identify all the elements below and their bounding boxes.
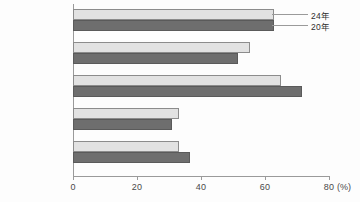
bar-4-series-20 [73, 152, 190, 163]
x-axis-tick-label-40: 40 [196, 182, 206, 192]
bar-2-series-24 [73, 75, 281, 86]
x-axis-tick-label-60: 60 [260, 182, 270, 192]
legend-leader-line-20 [272, 25, 308, 26]
bar-1-series-20 [73, 53, 238, 64]
bar-3-series-20 [73, 119, 172, 130]
bar-2-series-20 [73, 86, 302, 97]
bar-0-series-20 [73, 20, 274, 31]
x-axis-tick-label-0: 0 [70, 182, 75, 192]
legend-label-20: 20年 [311, 20, 330, 32]
x-axis-tick-20 [137, 176, 138, 180]
x-axis-tick-40 [201, 176, 202, 180]
x-axis-tick-60 [265, 176, 266, 180]
x-axis-unit-label: (%) [337, 182, 351, 192]
plot-area: プロテスタント カトリック モルモン教 ユダヤ教 イスラム教 [73, 4, 329, 176]
bar-chart: 0 20 40 60 80 (%) プロテスタント カトリック モルモン教 ユダ… [0, 0, 360, 202]
x-axis-tick-label-20: 20 [132, 182, 142, 192]
x-axis-tick-80 [329, 176, 330, 180]
bar-1-series-24 [73, 42, 250, 53]
bar-0-series-24 [73, 9, 274, 20]
bar-4-series-24 [73, 141, 179, 152]
x-axis-tick-label-80: 80 [324, 182, 334, 192]
bar-3-series-24 [73, 108, 179, 119]
legend-leader-line-24 [272, 14, 308, 15]
x-axis-tick-0 [73, 176, 74, 180]
